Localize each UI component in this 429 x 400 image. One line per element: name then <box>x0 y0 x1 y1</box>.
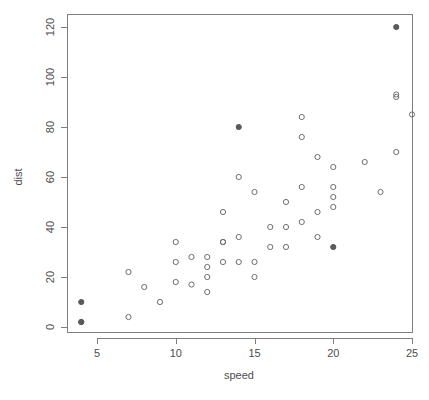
y-tick-label: 20 <box>44 271 56 283</box>
x-tick-label: 15 <box>248 347 260 359</box>
x-tick-label: 10 <box>170 347 182 359</box>
y-tick-label: 0 <box>44 324 56 330</box>
data-point-highlighted <box>394 24 399 29</box>
x-axis-title: speed <box>224 369 254 381</box>
y-tick-label: 100 <box>44 68 56 86</box>
x-tick-label: 5 <box>94 347 100 359</box>
scatter-plot-container: 020406080100120 510152025 speed dist <box>0 0 429 400</box>
x-tick-label: 20 <box>327 347 339 359</box>
y-tick-label: 40 <box>44 221 56 233</box>
data-point-highlighted <box>79 319 84 324</box>
y-axis-title: dist <box>12 168 24 185</box>
y-tick-label: 120 <box>44 18 56 36</box>
scatter-plot-svg: 020406080100120 510152025 speed dist <box>0 0 429 400</box>
data-point-highlighted <box>236 124 241 129</box>
data-point-highlighted <box>331 244 336 249</box>
y-tick-label: 60 <box>44 171 56 183</box>
y-tick-label: 80 <box>44 121 56 133</box>
plot-background <box>0 0 429 400</box>
data-point-highlighted <box>79 299 84 304</box>
x-tick-label: 25 <box>406 347 418 359</box>
